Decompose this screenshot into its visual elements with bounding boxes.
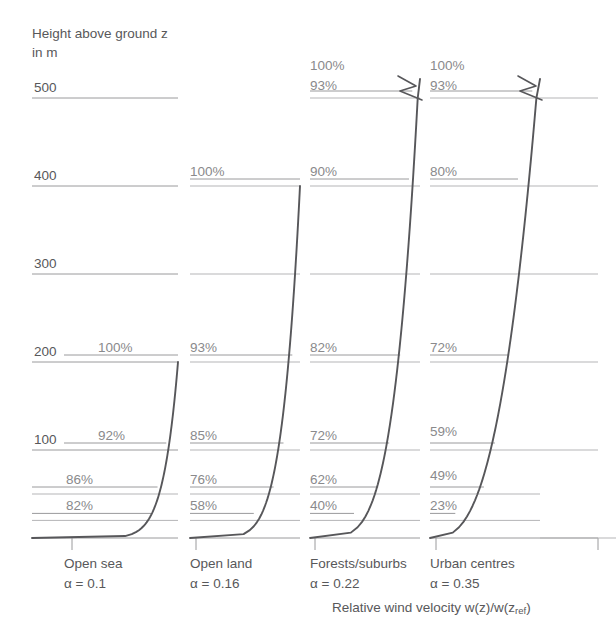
pct-label-open-land-58: 58% <box>190 498 217 513</box>
pct-label-open-sea-100: 100% <box>98 340 133 355</box>
pct-label-urban-centres-100: 100% <box>430 58 465 73</box>
pct-label-urban-centres-72: 72% <box>430 340 457 355</box>
profile-curve-forests-suburbs <box>310 79 420 538</box>
column-alpha-open-sea: α = 0.1 <box>64 576 106 591</box>
column-name-open-sea: Open sea <box>64 554 123 574</box>
pct-label-urban-centres-49: 49% <box>430 468 457 483</box>
pct-label-open-land-100: 100% <box>190 164 225 179</box>
pct-label-open-sea-82: 82% <box>66 498 93 513</box>
y-tick-label-400: 400 <box>34 168 57 183</box>
y-tick-label-300: 300 <box>34 256 57 271</box>
pct-label-forests-suburbs-62: 62% <box>310 472 337 487</box>
pct-label-urban-centres-59: 59% <box>430 424 457 439</box>
column-alpha-open-land: α = 0.16 <box>190 576 239 591</box>
pct-label-forests-suburbs-40: 40% <box>310 498 337 513</box>
pct-label-urban-centres-80: 80% <box>430 164 457 179</box>
pct-label-open-land-85: 85% <box>190 428 217 443</box>
column-alpha-urban-centres: α = 0.35 <box>430 576 479 591</box>
pct-label-forests-suburbs-90: 90% <box>310 164 337 179</box>
column-name-open-land: Open land <box>190 554 252 574</box>
y-tick-label-200: 200 <box>34 344 57 359</box>
caption-text-after: ) <box>526 600 531 615</box>
pct-label-urban-centres-93: 93% <box>430 78 457 93</box>
caption-subscript: ref <box>515 605 526 616</box>
pct-label-urban-centres-23: 23% <box>430 498 457 513</box>
pct-label-open-sea-86: 86% <box>66 472 93 487</box>
pct-label-open-land-76: 76% <box>190 472 217 487</box>
column-name-urban-centres: Urban centres <box>430 554 515 574</box>
caption-text-before: Relative wind velocity w(z)/w(z <box>332 600 515 615</box>
pct-label-forests-suburbs-93: 93% <box>310 78 337 93</box>
pct-label-open-sea-92: 92% <box>98 428 125 443</box>
pct-label-forests-suburbs-100: 100% <box>310 58 345 73</box>
y-tick-label-500: 500 <box>34 80 57 95</box>
x-axis-caption: Relative wind velocity w(z)/w(zref) <box>332 600 531 615</box>
y-tick-label-100: 100 <box>34 432 57 447</box>
column-name-forests-suburbs: Forests/suburbs <box>310 554 407 574</box>
pct-label-open-land-93: 93% <box>190 340 217 355</box>
wind-profile-diagram <box>0 0 616 628</box>
pct-label-forests-suburbs-82: 82% <box>310 340 337 355</box>
pct-label-forests-suburbs-72: 72% <box>310 428 337 443</box>
column-alpha-forests-suburbs: α = 0.22 <box>310 576 359 591</box>
